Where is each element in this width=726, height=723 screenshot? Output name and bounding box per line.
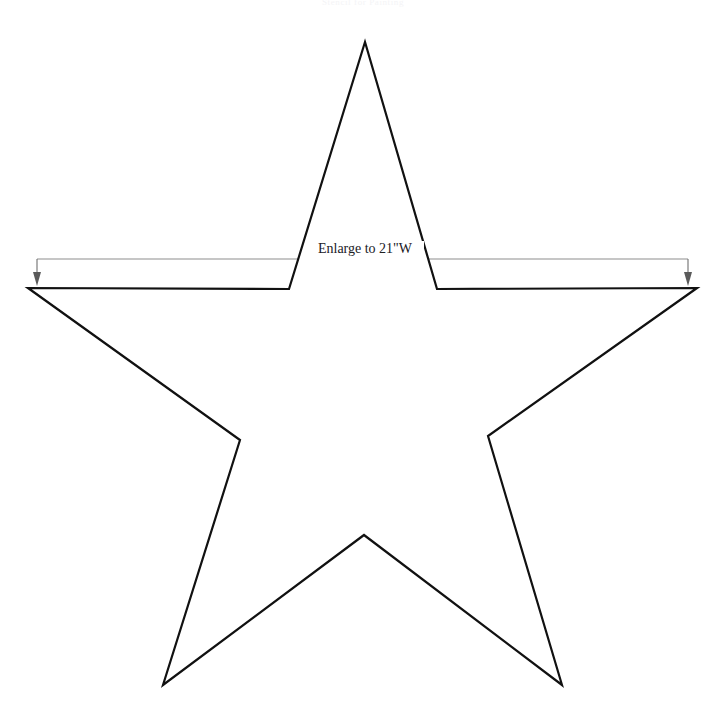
star-outline xyxy=(28,42,697,685)
star-template-artboard xyxy=(0,0,726,723)
page-canvas: Stencil for Painting Enlarge to 21"W xyxy=(0,0,726,723)
dimension-left-arrowhead xyxy=(33,272,41,286)
dimension-label: Enlarge to 21"W xyxy=(306,241,424,257)
dimension-right-arrowhead xyxy=(684,272,692,286)
